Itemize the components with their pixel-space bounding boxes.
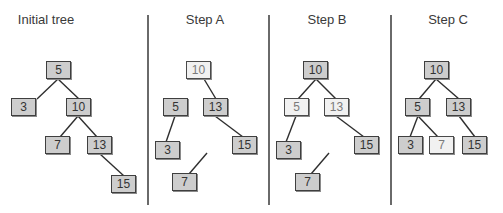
edge-step-c-10-5: [419, 79, 436, 99]
tree-node-step-b-7: 7: [295, 173, 320, 191]
tree-node-initial-10: 10: [66, 98, 91, 116]
panel-title-step-b: Step B: [297, 12, 357, 27]
tree-node-initial-3: 3: [11, 98, 36, 116]
tree-node-initial-15: 15: [111, 175, 136, 193]
edge-step-c-5-3: [410, 116, 418, 137]
tree-node-step-a-13: 13: [203, 98, 228, 116]
edge-initial-13-15: [100, 154, 124, 176]
edge-step-a-5-3: [166, 116, 175, 142]
tree-node-step-a-3: 3: [155, 141, 180, 159]
edge-step-a-10-13: [204, 79, 216, 99]
tree-node-step-c-13: 13: [446, 98, 471, 116]
edge-initial-10-13: [78, 116, 97, 137]
tree-node-step-b-15: 15: [354, 136, 379, 154]
tree-node-step-c-15: 15: [462, 136, 487, 154]
edge-initial-5-10: [58, 79, 79, 99]
tree-node-step-a-10: 10: [186, 61, 211, 79]
tree-node-step-a-7: 7: [172, 173, 197, 191]
panel-divider: [147, 15, 149, 205]
tree-node-initial-13: 13: [87, 136, 112, 154]
edge-initial-10-7: [60, 116, 78, 137]
edge-step-c-5-7: [418, 116, 438, 137]
panel-divider: [268, 15, 270, 205]
panel-title-initial: Initial tree: [6, 12, 86, 27]
tree-node-step-c-7: 7: [429, 136, 454, 154]
tree-node-step-b-5: 5: [284, 98, 309, 116]
edge-step-b-10-5: [298, 79, 316, 99]
tree-node-initial-5: 5: [46, 61, 71, 79]
tree-node-initial-7: 7: [45, 136, 70, 154]
edge-step-a-detached-7: [189, 153, 207, 174]
tree-node-step-c-10: 10: [424, 61, 449, 79]
tree-node-step-b-3: 3: [276, 141, 301, 159]
edge-step-a-13-15: [215, 116, 243, 137]
tree-node-step-b-13: 13: [324, 98, 349, 116]
panel-title-step-a: Step A: [175, 12, 235, 27]
edge-initial-5-3: [37, 79, 58, 99]
edge-step-b-5-3: [286, 116, 296, 142]
panel-title-step-c: Step C: [418, 12, 478, 27]
edge-step-c-13-15: [459, 116, 475, 137]
tree-node-step-b-10: 10: [303, 61, 328, 79]
tree-node-step-a-5: 5: [163, 98, 188, 116]
tree-node-step-c-3: 3: [398, 136, 423, 154]
panel-divider: [390, 15, 392, 205]
edge-step-b-10-13: [316, 79, 336, 99]
edge-step-b-13-15: [336, 116, 364, 137]
edge-step-c-10-13: [436, 79, 459, 99]
tree-node-step-a-15: 15: [232, 136, 257, 154]
edge-step-b-detached-7: [311, 153, 329, 174]
tree-node-step-c-5: 5: [405, 98, 430, 116]
